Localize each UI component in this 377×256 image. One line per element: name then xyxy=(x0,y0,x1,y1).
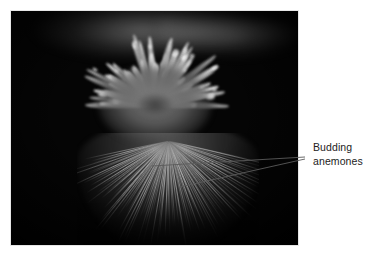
column-shadow xyxy=(77,209,259,245)
water-haze-right xyxy=(160,13,298,47)
anemone-column xyxy=(77,133,259,245)
callout-label-line-2: anemones xyxy=(313,155,363,169)
callout-label-line-1: Budding xyxy=(313,141,363,155)
mouth xyxy=(138,94,172,116)
photo-canvas xyxy=(11,11,298,245)
callout-label: Budding anemones xyxy=(313,141,363,168)
anemone-photograph xyxy=(11,11,298,245)
figure-root: Budding anemones xyxy=(0,0,377,256)
